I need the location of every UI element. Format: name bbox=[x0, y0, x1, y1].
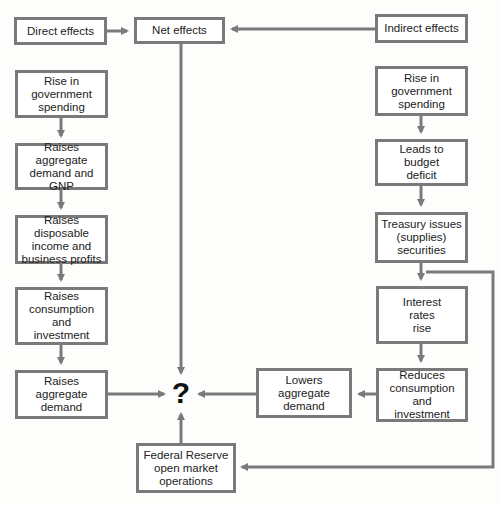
raises-consumption-investment-box: Raises consumption and investment bbox=[15, 287, 108, 345]
fiscal-policy-flow-diagram: Direct effects Net effects Indirect effe… bbox=[0, 0, 502, 505]
federal-reserve-box: Federal Reserve open market operations bbox=[136, 443, 236, 493]
box-label: Raises disposable income and business pr… bbox=[21, 214, 102, 266]
box-label: Raises consumption and investment bbox=[29, 290, 94, 342]
raises-aggregate-demand-box: Raises aggregate demand bbox=[15, 370, 108, 419]
box-label: Rise in government spending bbox=[31, 75, 92, 114]
lowers-aggregate-demand-box: Lowers aggregate demand bbox=[256, 368, 352, 418]
reduces-consumption-investment-box: Reduces consumption and investment bbox=[376, 368, 468, 422]
budget-deficit-box: Leads to budget deficit bbox=[375, 139, 468, 186]
indirect-effects-label: Indirect effects bbox=[384, 22, 459, 35]
left-rise-in-spending-box: Rise in government spending bbox=[15, 70, 108, 118]
box-label: Reduces consumption and investment bbox=[389, 369, 454, 421]
net-effects-box: Net effects bbox=[134, 17, 225, 44]
direct-effects-label: Direct effects bbox=[27, 25, 94, 38]
outcome-question-mark: ? bbox=[169, 378, 193, 408]
box-label: Leads to budget deficit bbox=[399, 143, 443, 182]
box-label: Lowers aggregate demand bbox=[278, 374, 330, 413]
interest-rates-rise-box: Interest rates rise bbox=[376, 286, 468, 344]
box-label: Treasury issues (supplies) securities bbox=[381, 218, 462, 257]
box-label: Federal Reserve open market operations bbox=[143, 449, 228, 488]
box-label: Raises aggregate demand and GNP bbox=[21, 141, 102, 193]
right-rise-in-spending-box: Rise in government spending bbox=[375, 66, 468, 116]
direct-effects-box: Direct effects bbox=[14, 17, 107, 45]
treasury-securities-box: Treasury issues (supplies) securities bbox=[375, 212, 468, 263]
raises-disposable-income-box: Raises disposable income and business pr… bbox=[15, 215, 108, 264]
indirect-effects-box: Indirect effects bbox=[375, 14, 468, 43]
box-label: Rise in government spending bbox=[391, 72, 452, 111]
box-label: Interest rates rise bbox=[403, 296, 441, 335]
net-effects-label: Net effects bbox=[152, 24, 207, 37]
box-label: Raises aggregate demand bbox=[36, 375, 88, 414]
raises-ad-and-gnp-box: Raises aggregate demand and GNP bbox=[15, 143, 108, 190]
